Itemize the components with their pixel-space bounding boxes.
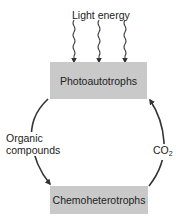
organic-compounds-line-1: Organic [6,132,60,144]
photoautotrophs-label: Photoautotrophs [60,75,137,87]
chemoheterotrophs-label: Chemoheterotrophs [53,194,146,206]
chemoheterotrophs-box: Chemoheterotrophs [50,186,148,214]
wavy-arrow-2 [98,20,100,62]
co2-label-main: CO [153,144,169,156]
light-energy-label: Light energy [72,9,130,21]
co2-label-subscript: 2 [169,150,173,157]
organic-compounds-line-2: compounds [6,144,60,156]
light-energy-arrows [73,20,126,62]
wavy-arrow-1 [73,20,75,62]
co2-arrow [149,100,164,186]
photoautotrophs-box: Photoautotrophs [50,62,147,99]
co2-label: CO2 [153,144,173,160]
wavy-arrow-3 [124,20,126,62]
organic-compounds-label: Organic compounds [6,132,62,156]
diagram-canvas: Light energy Photoautotrophs Organic com… [0,0,183,220]
